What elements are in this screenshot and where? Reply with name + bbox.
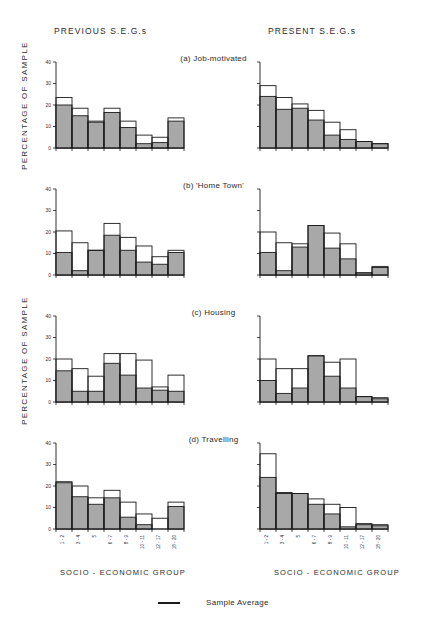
svg-text:40: 40: [45, 313, 51, 319]
svg-text:10: 10: [45, 504, 51, 510]
svg-text:18 - 20: 18 - 20: [376, 535, 381, 550]
svg-text:6 - 7: 6 - 7: [312, 535, 317, 545]
plot-d-present: 1 - 23 - 456 - 78 - 910 - 1112 - 1718 - …: [252, 443, 394, 555]
svg-text:3 - 4: 3 - 4: [280, 535, 285, 545]
column-header-previous: PREVIOUS S.E.G.s: [54, 26, 147, 36]
svg-text:10: 10: [45, 250, 51, 256]
svg-text:5: 5: [92, 535, 97, 538]
svg-text:18 - 20: 18 - 20: [172, 535, 177, 550]
svg-text:30: 30: [45, 461, 51, 467]
svg-text:10 - 11: 10 - 11: [140, 535, 145, 549]
column-header-present: PRESENT S.E.G.s: [268, 26, 356, 36]
svg-text:0: 0: [48, 399, 51, 405]
svg-text:30: 30: [45, 80, 51, 86]
svg-text:6 - 7: 6 - 7: [108, 535, 113, 545]
legend-label-sample-average: Sample Average: [206, 598, 269, 607]
svg-text:0: 0: [48, 272, 51, 278]
svg-text:5: 5: [296, 535, 301, 538]
plot-b-previous: 010203040: [38, 189, 190, 283]
svg-text:20: 20: [45, 483, 51, 489]
svg-text:40: 40: [45, 186, 51, 192]
svg-text:1 - 2: 1 - 2: [264, 535, 269, 545]
svg-text:1 - 2: 1 - 2: [60, 535, 65, 545]
x-axis-title-right: SOCIO - ECONOMIC GROUP: [274, 568, 400, 577]
svg-text:20: 20: [45, 102, 51, 108]
plot-c-previous: 010203040: [38, 316, 190, 410]
y-axis-title-top: PERCENTAGE OF SAMPLE: [20, 41, 29, 170]
svg-text:10: 10: [45, 123, 51, 129]
svg-text:20: 20: [45, 356, 51, 362]
figure-root: PREVIOUS S.E.G.s PRESENT S.E.G.s (a) Job…: [0, 0, 427, 631]
svg-text:20: 20: [45, 229, 51, 235]
x-axis-title-left: SOCIO - ECONOMIC GROUP: [60, 568, 186, 577]
svg-text:40: 40: [45, 59, 51, 65]
svg-text:30: 30: [45, 334, 51, 340]
y-axis-title-bottom: PERCENTAGE OF SAMPLE: [20, 296, 29, 425]
plot-b-present: [252, 189, 394, 283]
plot-c-present: [252, 316, 394, 410]
svg-text:8 - 9: 8 - 9: [124, 535, 129, 545]
plot-a-previous: 010203040: [38, 62, 190, 156]
svg-text:0: 0: [48, 526, 51, 532]
legend: Sample Average: [0, 598, 427, 607]
svg-text:3 - 4: 3 - 4: [76, 535, 81, 545]
svg-text:10 - 11: 10 - 11: [344, 535, 349, 549]
plot-d-previous: 0102030401 - 23 - 456 - 78 - 910 - 1112 …: [38, 443, 190, 555]
svg-text:0: 0: [48, 145, 51, 151]
svg-text:8 - 9: 8 - 9: [328, 535, 333, 545]
sample-average-line-icon: [158, 602, 180, 604]
svg-text:30: 30: [45, 207, 51, 213]
plot-a-present: [252, 62, 394, 156]
svg-text:10: 10: [45, 377, 51, 383]
svg-text:12 - 17: 12 - 17: [156, 535, 161, 550]
svg-text:12 - 17: 12 - 17: [360, 535, 365, 550]
svg-text:40: 40: [45, 440, 51, 446]
